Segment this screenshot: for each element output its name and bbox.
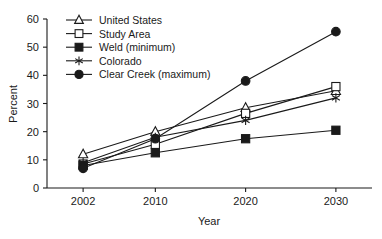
y-axis-tick-labels: 0102030405060 <box>27 13 39 194</box>
y-axis: 0102030405060 Percent <box>7 13 47 194</box>
marker-filled-square <box>332 126 340 134</box>
legend-item-1: United States <box>66 14 162 26</box>
marker-filled-circle <box>332 27 341 36</box>
x-axis: 2002201020202030 Year <box>47 188 372 227</box>
legend-label: Weld (minimum) <box>99 41 175 53</box>
y-tick-label: 10 <box>27 154 39 166</box>
marker-open-triangle <box>75 15 84 23</box>
legend-label: Study Area <box>99 28 151 40</box>
series-markers-3 <box>79 126 340 169</box>
marker-filled-square <box>151 149 159 157</box>
y-tick-label: 20 <box>27 126 39 138</box>
marker-filled-circle <box>79 164 88 173</box>
legend-label: Clear Creek (maximum) <box>99 68 210 80</box>
y-tick-label: 40 <box>27 69 39 81</box>
x-tick-label: 2010 <box>143 195 167 207</box>
series-3 <box>83 130 336 165</box>
y-tick-label: 50 <box>27 41 39 53</box>
legend-item-5: Clear Creek (maximum) <box>66 68 210 80</box>
legend-entries: United StatesStudy AreaWeld (minimum)Col… <box>66 14 210 80</box>
legend-label: United States <box>99 14 162 26</box>
x-tick-label: 2020 <box>233 195 257 207</box>
marker-open-square <box>75 30 83 38</box>
x-axis-title: Year <box>198 215 221 227</box>
legend-item-4: Colorado <box>66 55 142 67</box>
x-tick-label: 2030 <box>324 195 348 207</box>
legend-item-2: Study Area <box>66 28 151 40</box>
x-axis-ticks <box>83 188 336 192</box>
y-tick-label: 0 <box>33 182 39 194</box>
legend-item-3: Weld (minimum) <box>66 41 175 53</box>
marker-filled-circle <box>151 134 160 143</box>
x-tick-label: 2002 <box>71 195 95 207</box>
y-tick-label: 30 <box>27 98 39 110</box>
marker-filled-circle <box>75 70 83 78</box>
marker-open-square <box>332 83 340 91</box>
y-tick-label: 60 <box>27 13 39 25</box>
y-axis-title: Percent <box>7 85 19 123</box>
legend-label: Colorado <box>99 55 142 67</box>
chart-svg: 0102030405060 Percent 2002201020202030 Y… <box>0 0 382 239</box>
marker-filled-square <box>242 135 250 143</box>
marker-filled-square <box>75 43 83 51</box>
y-axis-ticks <box>43 19 47 188</box>
marker-filled-circle <box>241 77 250 86</box>
series-line <box>83 130 336 165</box>
legend: United StatesStudy AreaWeld (minimum)Col… <box>58 10 236 80</box>
chart-figure: 0102030405060 Percent 2002201020202030 Y… <box>0 0 382 239</box>
x-axis-tick-labels: 2002201020202030 <box>71 195 348 207</box>
